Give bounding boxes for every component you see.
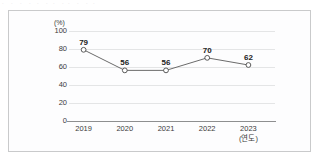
data-label-2021: 56 [151, 58, 181, 67]
x-tick-label-2022: 2022 [185, 124, 229, 133]
data-label-2019: 79 [69, 38, 99, 47]
data-point-2021 [164, 68, 169, 73]
data-point-2023 [246, 63, 251, 68]
data-point-2022 [205, 55, 210, 60]
clipped-header-text: ㆍ ㆍ ㆍ ㆍ ㆍ ㆍㆍ ㆍㆍ ㆍ ㆍㆍ [0, 0, 323, 7]
data-label-2020: 56 [110, 58, 140, 67]
data-label-2023: 62 [233, 53, 263, 62]
x-tick-label-2023: 2023 [226, 124, 270, 133]
x-tick-label-2020: 2020 [103, 124, 147, 133]
x-tick-label-2019: 2019 [62, 124, 106, 133]
chart-screenshot: ㆍ ㆍ ㆍ ㆍ ㆍ ㆍㆍ ㆍㆍ ㆍ ㆍㆍ (%) 100 80 60 40 20… [0, 0, 323, 161]
x-tick-label-2021: 2021 [144, 124, 188, 133]
data-label-2022: 70 [192, 46, 222, 55]
data-point-2020 [122, 68, 127, 73]
x-axis-unit-label: (연도) [226, 134, 270, 143]
data-point-2019 [81, 47, 86, 52]
plot-area: (%) 100 80 60 40 20 0 [9, 11, 312, 153]
chart-frame: (%) 100 80 60 40 20 0 [8, 10, 311, 152]
